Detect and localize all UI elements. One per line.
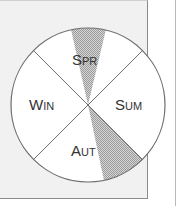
season-wheel: SPR SUM AUT WIN [0, 0, 178, 206]
